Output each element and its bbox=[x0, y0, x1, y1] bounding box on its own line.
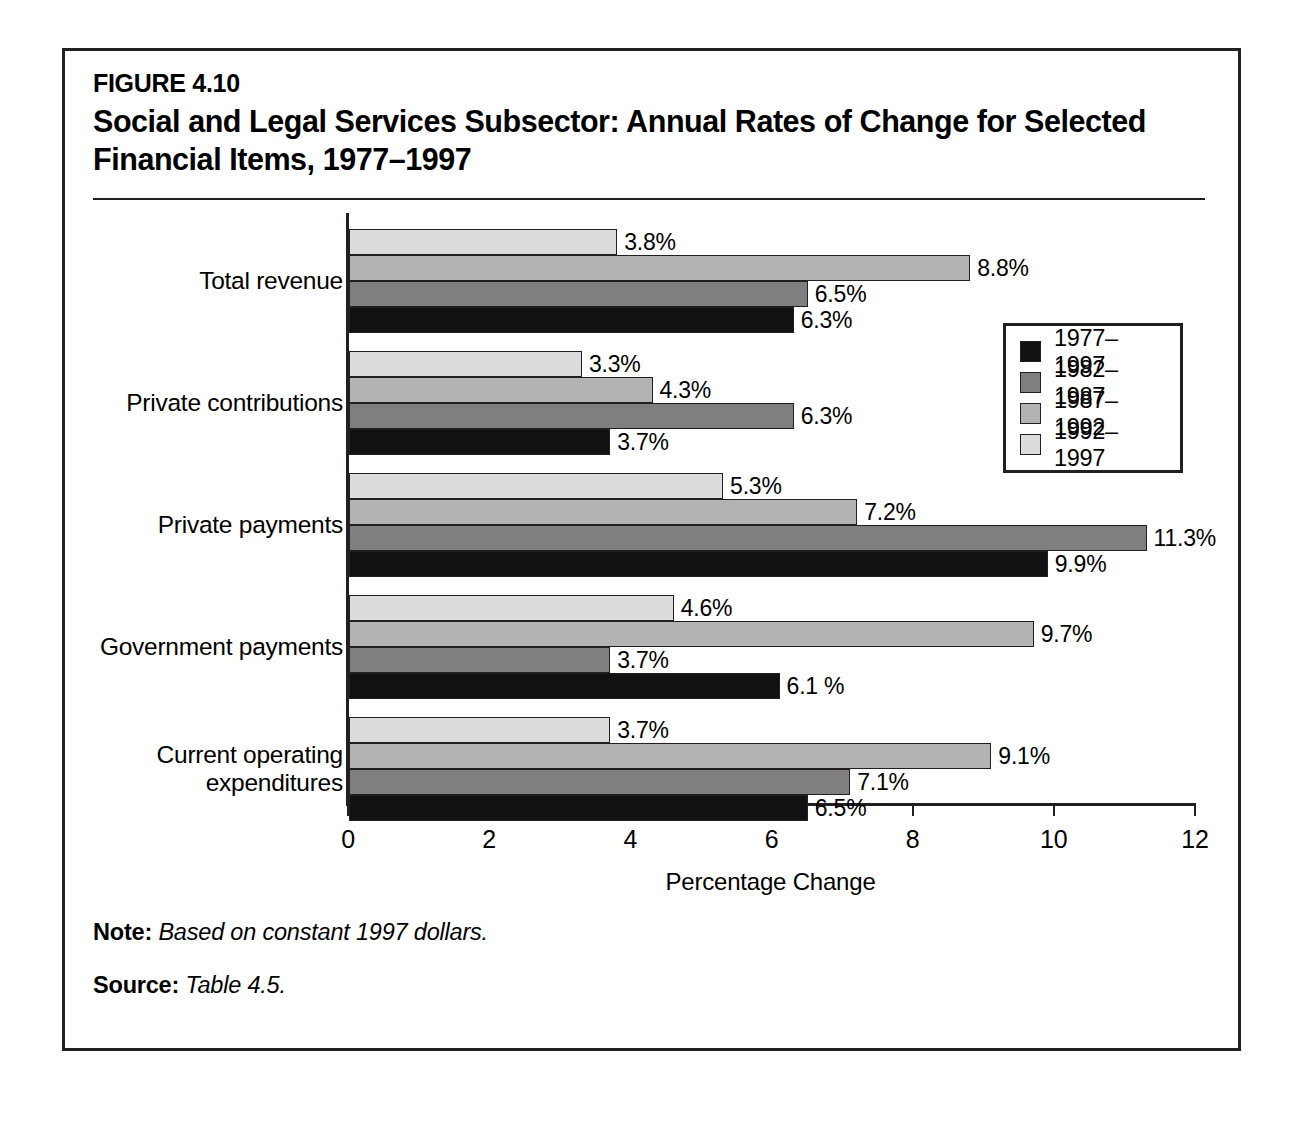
bar[interactable] bbox=[349, 621, 1034, 647]
source-line: Source: Table 4.5. bbox=[93, 972, 1183, 999]
x-axis-tick-label: 0 bbox=[341, 825, 355, 854]
bar-value-label: 7.2% bbox=[864, 499, 916, 526]
category-label: Current operating expenditures bbox=[43, 741, 343, 797]
figure-header: FIGURE 4.10 Social and Legal Services Su… bbox=[93, 69, 1203, 179]
bar-value-label: 8.8% bbox=[977, 255, 1029, 282]
bar-value-label: 9.9% bbox=[1055, 551, 1107, 578]
bar[interactable] bbox=[349, 351, 582, 377]
bar-value-label: 6.3% bbox=[801, 307, 853, 334]
x-axis-tick-label: 2 bbox=[482, 825, 496, 854]
bar-value-label: 4.6% bbox=[681, 595, 733, 622]
bar-row: 3.8% bbox=[349, 229, 1256, 255]
bar-value-label: 6.3% bbox=[801, 403, 853, 430]
bar-row: 4.6% bbox=[349, 595, 1256, 621]
title-divider bbox=[93, 198, 1205, 200]
x-axis-tick-label: 8 bbox=[906, 825, 920, 854]
bar-row: 6.5% bbox=[349, 795, 1256, 821]
bar[interactable] bbox=[349, 229, 617, 255]
bar-value-label: 3.7% bbox=[617, 717, 669, 744]
bar-value-label: 3.7% bbox=[617, 429, 669, 456]
bar[interactable] bbox=[349, 551, 1048, 577]
bar-group: Government payments4.6%9.7%3.7%6.1 % bbox=[65, 595, 1244, 699]
bar-value-label: 4.3% bbox=[660, 377, 712, 404]
category-label: Private payments bbox=[43, 511, 343, 539]
bar-row: 9.7% bbox=[349, 621, 1256, 647]
legend-swatch-icon bbox=[1020, 372, 1041, 393]
bar[interactable] bbox=[349, 673, 780, 699]
bar-row: 6.1 % bbox=[349, 673, 1256, 699]
bar-row: 7.2% bbox=[349, 499, 1256, 525]
bar[interactable] bbox=[349, 769, 850, 795]
bar-group: Current operating expenditures3.7%9.1%7.… bbox=[65, 717, 1244, 821]
source-label: Source: bbox=[93, 972, 179, 998]
bar[interactable] bbox=[349, 281, 808, 307]
x-axis-tick-label: 10 bbox=[1040, 825, 1067, 854]
bar[interactable] bbox=[349, 473, 723, 499]
bar-value-label: 7.1% bbox=[857, 769, 909, 796]
x-axis-tick-label: 12 bbox=[1181, 825, 1208, 854]
bar-value-label: 9.7% bbox=[1041, 621, 1093, 648]
x-axis-tick-label: 4 bbox=[623, 825, 637, 854]
bar-value-label: 3.8% bbox=[624, 229, 676, 256]
legend-swatch-icon bbox=[1020, 434, 1041, 455]
figure-title: Social and Legal Services Subsector: Ann… bbox=[93, 102, 1203, 179]
bar-value-label: 6.5% bbox=[815, 795, 867, 822]
bar[interactable] bbox=[349, 743, 991, 769]
category-label: Total revenue bbox=[43, 267, 343, 295]
legend-swatch-icon bbox=[1020, 341, 1041, 362]
note-line: Note: Based on constant 1997 dollars. bbox=[93, 919, 1183, 946]
source-text: Table 4.5. bbox=[185, 972, 285, 998]
bar-row: 8.8% bbox=[349, 255, 1256, 281]
bar-group: Private payments5.3%7.2%11.3%9.9% bbox=[65, 473, 1244, 577]
bar-value-label: 6.5% bbox=[815, 281, 867, 308]
bar[interactable] bbox=[349, 647, 610, 673]
bar-value-label: 11.3% bbox=[1154, 525, 1217, 552]
bar-row: 11.3% bbox=[349, 525, 1256, 551]
bar[interactable] bbox=[349, 595, 674, 621]
bar-row: 5.3% bbox=[349, 473, 1256, 499]
figure-frame: FIGURE 4.10 Social and Legal Services Su… bbox=[62, 48, 1241, 1051]
legend-swatch-icon bbox=[1020, 403, 1041, 424]
figure-footnotes: Note: Based on constant 1997 dollars. So… bbox=[93, 919, 1183, 1025]
bar[interactable] bbox=[349, 307, 794, 333]
x-axis-tick-label: 6 bbox=[765, 825, 779, 854]
legend-item[interactable]: 1992–1997 bbox=[1020, 429, 1168, 460]
bar[interactable] bbox=[349, 255, 970, 281]
bar-value-label: 5.3% bbox=[730, 473, 782, 500]
bar-value-label: 6.1 % bbox=[787, 673, 845, 700]
chart-legend: 1977–19971982–19871987–19921992–1997 bbox=[1003, 323, 1183, 473]
chart-plot-area: 024681012 Total revenue3.8%8.8%6.5%6.3%P… bbox=[65, 213, 1244, 853]
bar-value-label: 3.3% bbox=[589, 351, 641, 378]
bar[interactable] bbox=[349, 499, 857, 525]
bar-row: 6.5% bbox=[349, 281, 1256, 307]
note-label: Note: bbox=[93, 919, 152, 945]
bar-value-label: 9.1% bbox=[998, 743, 1050, 770]
bar-row: 9.9% bbox=[349, 551, 1256, 577]
bar[interactable] bbox=[349, 795, 808, 821]
bar-row: 3.7% bbox=[349, 647, 1256, 673]
legend-label: 1992–1997 bbox=[1054, 418, 1168, 472]
bar[interactable] bbox=[349, 377, 653, 403]
bar[interactable] bbox=[349, 717, 610, 743]
bar[interactable] bbox=[349, 525, 1147, 551]
bar[interactable] bbox=[349, 429, 610, 455]
bar-row: 9.1% bbox=[349, 743, 1256, 769]
bar[interactable] bbox=[349, 403, 794, 429]
category-label: Private contributions bbox=[43, 389, 343, 417]
bar-row: 7.1% bbox=[349, 769, 1256, 795]
figure-number: FIGURE 4.10 bbox=[93, 69, 1203, 98]
bar-row: 3.7% bbox=[349, 717, 1256, 743]
category-label: Government payments bbox=[43, 633, 343, 661]
note-text: Based on constant 1997 dollars. bbox=[158, 919, 488, 945]
x-axis-title: Percentage Change bbox=[346, 868, 1195, 896]
bar-value-label: 3.7% bbox=[617, 647, 669, 674]
bar-group: Total revenue3.8%8.8%6.5%6.3% bbox=[65, 229, 1244, 333]
